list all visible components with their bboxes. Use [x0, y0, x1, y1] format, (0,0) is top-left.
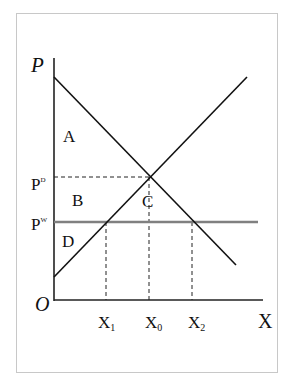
p-world-sup: W: [40, 216, 47, 224]
area-c-label: C: [142, 192, 153, 211]
area-b-label: B: [72, 191, 83, 210]
x-axis-label: X: [258, 310, 273, 332]
area-a-label: A: [63, 127, 76, 146]
p-domestic-sup: D: [40, 176, 45, 184]
x0-label: X0: [145, 313, 162, 333]
origin-label: O: [35, 293, 49, 315]
p-domestic-label: PD: [31, 175, 46, 194]
x2-label: X2: [188, 313, 205, 333]
demand-curve: [54, 77, 236, 265]
y-axis-label: P: [30, 53, 44, 77]
area-d-label: D: [62, 232, 74, 251]
p-world-label: PW: [31, 215, 47, 234]
x1-label: X1: [98, 313, 115, 333]
